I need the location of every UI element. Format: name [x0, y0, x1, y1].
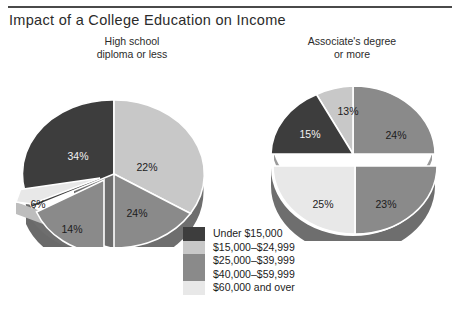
legend-item: $25,000–$39,999	[183, 254, 295, 268]
page-title: Impact of a College Education on Income	[9, 12, 286, 28]
figure-container: Impact of a College Education on Income …	[0, 0, 459, 320]
pie-right-label-2: 24%	[385, 129, 406, 141]
pie-right-label-1: 13%	[337, 105, 358, 117]
legend-swatch-icon	[183, 241, 205, 255]
pie-right-label-0: 15%	[299, 128, 320, 140]
legend-item: Under $15,000	[183, 227, 295, 241]
pie-left-label-2: 24%	[126, 207, 147, 219]
legend-item-label: $25,000–$39,999	[213, 254, 295, 268]
pie-caption-left-line2: diploma or less	[62, 48, 202, 61]
pie-left-label-3: 14%	[61, 223, 82, 235]
pie-chart-high-school: 34% 22% 24% 14% 6%	[14, 62, 214, 247]
legend-swatch-icon	[183, 268, 205, 282]
legend-item: $60,000 and over	[183, 281, 295, 295]
legend: Under $15,000 $15,000–$24,999 $25,000–$3…	[183, 227, 295, 295]
legend-item: $40,000–$59,999	[183, 268, 295, 282]
pie-left-label-0: 34%	[67, 150, 88, 162]
pie-caption-right: Associate's degree or more	[272, 35, 432, 60]
pie-caption-left: High school diploma or less	[62, 35, 202, 60]
pie-right-label-4: 25%	[312, 198, 333, 210]
pie-caption-right-line2: or more	[272, 48, 432, 61]
pie-left-label-4: 6%	[30, 198, 45, 210]
legend-item-label: $15,000–$24,999	[213, 241, 295, 255]
legend-item: $15,000–$24,999	[183, 241, 295, 255]
legend-item-label: $40,000–$59,999	[213, 268, 295, 282]
pie-caption-left-line1: High school	[62, 35, 202, 48]
legend-item-label: Under $15,000	[213, 227, 282, 241]
legend-swatch-icon	[183, 227, 205, 241]
title-divider-rule	[8, 6, 452, 8]
legend-swatch-icon	[183, 254, 205, 268]
legend-swatch-icon	[183, 281, 205, 295]
pie-caption-right-line1: Associate's degree	[272, 35, 432, 48]
pie-right-slice-25000-39999	[353, 86, 435, 154]
pie-chart-associates-degree: 15% 13% 24% 23% 25%	[258, 66, 448, 241]
legend-item-label: $60,000 and over	[213, 281, 295, 295]
pie-right-label-3: 23%	[375, 198, 396, 210]
pie-left-label-1: 22%	[136, 161, 157, 173]
